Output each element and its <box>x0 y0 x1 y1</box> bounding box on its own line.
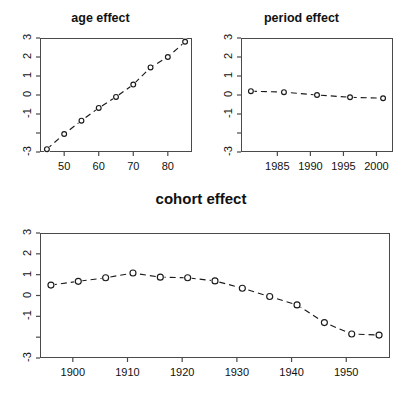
y-tick-label: -1 <box>222 106 234 120</box>
x-tick-label: 80 <box>146 160 190 172</box>
y-tick-label: 1 <box>222 68 234 82</box>
y-tick-label: -1 <box>21 106 33 120</box>
x-tick-label: 1920 <box>160 366 204 378</box>
panel-period-effect: period effect 3210-1-31985199019952000 <box>201 0 402 182</box>
y-tick-label: 2 <box>21 49 33 63</box>
x-tick-label: 1950 <box>324 366 368 378</box>
x-tick-label: 1930 <box>215 366 259 378</box>
x-tick-label: 1910 <box>106 366 150 378</box>
panel-age-effect: age effect 3210-1-350607080 <box>0 0 201 182</box>
y-tick-label: 0 <box>21 87 33 101</box>
panel-cohort-effect: cohort effect 3210-1-3190019101920193019… <box>0 182 402 404</box>
y-tick-label: -1 <box>21 308 33 322</box>
y-tick-label: 3 <box>21 30 33 44</box>
y-tick-label: 2 <box>222 49 234 63</box>
y-tick-label: 3 <box>222 30 234 44</box>
y-tick-label: 1 <box>21 267 33 281</box>
y-tick-label: -3 <box>222 144 234 158</box>
y-tick-label: -3 <box>21 350 33 364</box>
x-tick-label: 1940 <box>270 366 314 378</box>
x-tick-label: 2000 <box>354 160 398 172</box>
y-tick-label: 1 <box>21 68 33 82</box>
y-tick-label: 0 <box>222 87 234 101</box>
y-tick-label: 0 <box>21 288 33 302</box>
y-tick-label: -3 <box>21 144 33 158</box>
y-tick-label: 3 <box>21 225 33 239</box>
x-tick-label: 1900 <box>51 366 95 378</box>
y-tick-label: 2 <box>21 246 33 260</box>
